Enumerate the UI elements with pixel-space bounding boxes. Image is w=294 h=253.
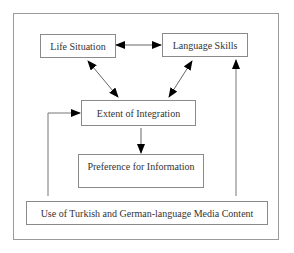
node-label: Language Skills: [173, 40, 238, 51]
node-label: Extent of Integration: [97, 108, 180, 119]
node-preference-for-information: Preference for Information: [78, 154, 204, 188]
node-label: Use of Turkish and German-language Media…: [41, 208, 254, 219]
node-language-skills: Language Skills: [162, 33, 248, 57]
node-label: Life Situation: [50, 41, 105, 52]
node-label: Preference for Information: [87, 161, 194, 172]
node-life-situation: Life Situation: [40, 34, 116, 58]
node-media-content: Use of Turkish and German-language Media…: [26, 201, 268, 225]
node-extent-of-integration: Extent of Integration: [81, 100, 196, 126]
